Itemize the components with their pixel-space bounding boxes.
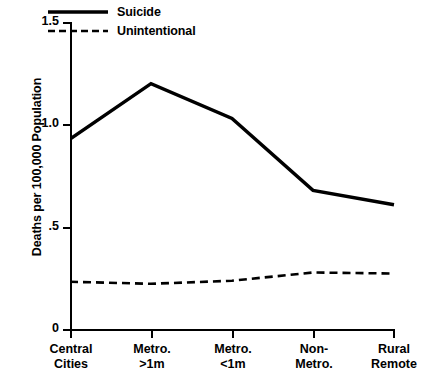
legend-key-dashed-line-icon (48, 25, 108, 37)
chart-legend: Suicide Unintentional (48, 2, 196, 40)
series-layer (70, 22, 395, 331)
series-line-unintentional (70, 273, 394, 284)
x-tick-label-rural-remote: Rural Remote (346, 342, 435, 372)
y-tick-label-0: 0 (52, 321, 59, 335)
x-tick-0 (70, 331, 72, 338)
x-tick-2 (232, 331, 234, 338)
y-tick-0: 0 (63, 329, 70, 331)
x-tick-1 (151, 331, 153, 338)
figure-caption (8, 378, 427, 387)
chart-figure: Deaths per 100,000 Population 1.5 1.0 .5… (0, 0, 435, 387)
y-axis-title: Deaths per 100,000 Population (30, 52, 44, 282)
y-tick-label-0.5: .5 (49, 219, 59, 233)
x-label-line-2: Remote (346, 357, 435, 372)
x-label-line-1: Rural (346, 342, 435, 357)
y-tick-label-1.0: 1.0 (42, 116, 59, 130)
plot-area: 1.5 1.0 .5 0 Central Cities Metro. >1m M… (70, 22, 395, 331)
legend-item-suicide: Suicide (48, 2, 196, 21)
x-tick-4 (393, 331, 395, 338)
x-tick-3 (313, 331, 315, 338)
legend-label-suicide: Suicide (117, 5, 161, 19)
legend-item-unintentional: Unintentional (48, 21, 196, 40)
series-line-suicide (70, 84, 394, 205)
legend-label-unintentional: Unintentional (117, 24, 196, 38)
y-tick-0.5: .5 (63, 227, 70, 229)
legend-key-solid-line-icon (48, 6, 108, 18)
y-tick-1.0: 1.0 (63, 124, 70, 126)
